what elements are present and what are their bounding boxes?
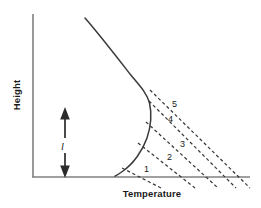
depth-arrow-head-down	[60, 166, 70, 179]
axis-titles-group: Height Temperature	[11, 79, 181, 199]
dry-adiabat-3-line	[146, 122, 218, 188]
diagram-canvas: l 5 4 3 2 1 Height Temperature	[0, 0, 261, 208]
depth-arrow-head-up	[60, 107, 70, 120]
height-axis-title: Height	[11, 79, 22, 110]
mixing-depth-arrow: l	[59, 107, 71, 178]
mixing-depth-label: l	[61, 141, 64, 152]
profile-curve-group	[85, 18, 151, 176]
adiabat-label-1: 1	[144, 164, 149, 174]
temperature-axis-title: Temperature	[123, 188, 182, 199]
adiabat-label-4: 4	[168, 114, 173, 124]
adiabat-label-2: 2	[167, 152, 172, 162]
adiabat-label-3: 3	[180, 139, 185, 149]
temperature-height-diagram: l 5 4 3 2 1 Height Temperature	[0, 0, 261, 208]
adiabat-lines-group	[122, 90, 250, 188]
environmental-temperature-profile-path	[85, 18, 151, 176]
dry-adiabat-1-line	[122, 168, 161, 188]
dry-adiabat-4-line	[149, 101, 236, 188]
adiabat-label-5: 5	[172, 99, 177, 109]
